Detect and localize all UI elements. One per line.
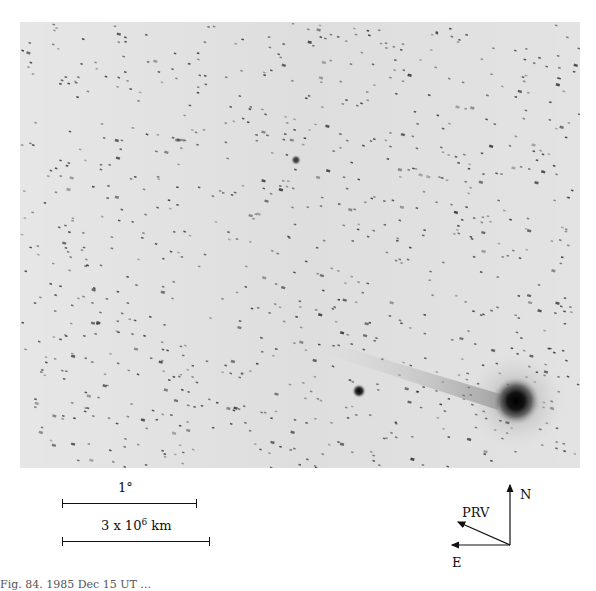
scale-label-km: 3 x 106 km <box>101 517 172 533</box>
scale-bar-km <box>62 541 210 542</box>
scale-bar-degree <box>62 503 197 504</box>
east-label: E <box>452 555 462 570</box>
scale-label-degree: 1° <box>118 480 133 495</box>
star-field <box>20 22 580 468</box>
scale-bar-tick <box>62 537 63 546</box>
prv-label: PRV <box>462 505 489 520</box>
comet-head <box>492 377 540 425</box>
faint-object <box>291 155 301 165</box>
figure-caption: Fig. 84. 1985 Dec 15 UT … <box>0 578 151 591</box>
north-label: N <box>520 487 531 502</box>
scale-bar-tick <box>62 499 63 508</box>
secondary-object <box>352 384 366 398</box>
prv-arrow <box>458 522 510 545</box>
scale-bar-tick <box>209 537 210 546</box>
scale-bar-tick <box>196 499 197 508</box>
comet-photograph <box>20 22 580 468</box>
